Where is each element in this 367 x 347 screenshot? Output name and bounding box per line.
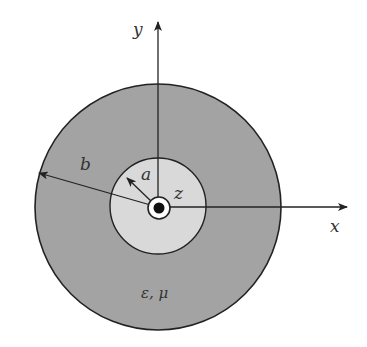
inner-radius-label: a [141, 164, 151, 184]
x-axis-label: x [330, 216, 340, 236]
z-axis-label: z [173, 183, 184, 203]
center-conductor-core [154, 203, 165, 214]
material-label: ε, μ [141, 284, 168, 302]
y-axis-label: y [132, 19, 143, 39]
outer-radius-label: b [80, 154, 91, 174]
coax-diagram: y x b a z ε, μ [0, 0, 367, 347]
